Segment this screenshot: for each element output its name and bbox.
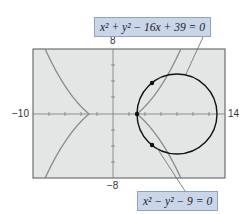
- intersection-point: [150, 143, 154, 147]
- y-min-label: −8: [107, 180, 118, 191]
- circle-equation-label: x² + y² − 16x + 39 = 0: [94, 17, 211, 37]
- x-max-label: 14: [228, 108, 239, 119]
- graph-figure: 8 −8 −10 14 x² + y² − 16x + 39 = 0 x² − …: [0, 0, 250, 214]
- x-min-label: −10: [12, 108, 29, 119]
- intersection-point: [135, 112, 139, 116]
- intersection-point: [150, 81, 154, 85]
- hyperbola-equation-label: x² − y² − 9 = 0: [137, 191, 218, 211]
